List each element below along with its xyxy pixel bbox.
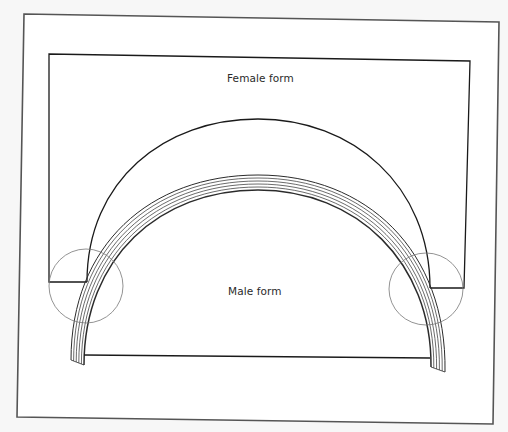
female-form-label: Female form: [227, 72, 294, 84]
diagram-canvas: Female form Male form: [0, 0, 508, 432]
male-form-label: Male form: [228, 285, 282, 297]
